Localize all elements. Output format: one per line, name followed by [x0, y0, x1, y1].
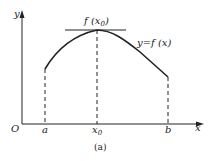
y-axis-label: y	[13, 8, 20, 19]
x-axis-label: x	[195, 122, 201, 133]
origin-label: O	[11, 123, 19, 134]
y-axis-arrow-icon	[20, 10, 25, 18]
max-value-label: f (x0)	[83, 15, 109, 28]
curve-label: y=f (x)	[136, 37, 171, 48]
diagram: y x O a x0 b f (x0) y=f (x) (a)	[0, 0, 214, 161]
tick-x0-label: x0	[92, 124, 103, 137]
tick-a-label: a	[42, 124, 48, 135]
tick-b-label: b	[165, 124, 171, 135]
figure-caption: (a)	[94, 142, 106, 152]
